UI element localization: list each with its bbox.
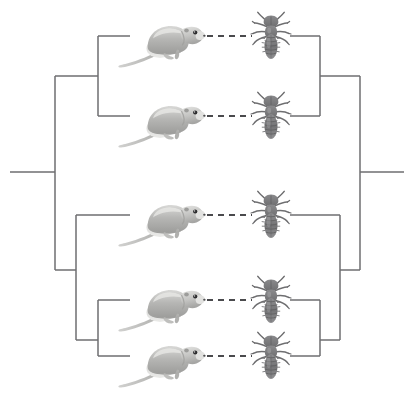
pocket-gopher-icon [118, 106, 205, 147]
cophylogeny-figure [0, 0, 414, 397]
host-tree-gophers [10, 36, 130, 356]
chewing-louse-icon [251, 276, 291, 323]
pocket-gopher-icon [118, 205, 205, 246]
chewing-louse-icon [251, 332, 291, 379]
host-tip-images [118, 26, 205, 387]
association-links [196, 36, 252, 356]
parasite-tree-lice [290, 36, 404, 356]
tanglegram-canvas [0, 0, 414, 397]
chewing-louse-icon [251, 92, 291, 139]
pocket-gopher-icon [118, 26, 205, 67]
parasite-tip-images [251, 12, 291, 379]
pocket-gopher-icon [118, 346, 205, 387]
chewing-louse-icon [251, 191, 291, 238]
pocket-gopher-icon [118, 290, 205, 331]
chewing-louse-icon [251, 12, 291, 59]
